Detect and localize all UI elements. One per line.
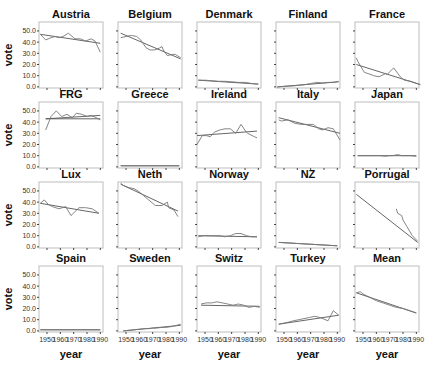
x-axis-label: year <box>376 348 399 360</box>
panel-nz: NZ <box>274 168 340 250</box>
x-tick-label: 1990 <box>251 336 267 343</box>
x-axis-label: year <box>218 348 241 360</box>
y-tick-label: 20.0 <box>22 141 36 148</box>
y-tick-label: 0.0 <box>26 243 36 250</box>
panel-title: Norway <box>209 168 250 180</box>
y-tick-label: 20.0 <box>22 305 36 312</box>
panel-frame <box>39 266 103 332</box>
panel-lux: Lux0.010.020.030.040.050.0vote <box>2 168 103 250</box>
panel-title: Lux <box>61 168 81 180</box>
panel-title: Austria <box>52 8 91 20</box>
panel-switz: Switz19501960197019801990year <box>195 252 266 360</box>
y-tick-label: 40.0 <box>22 119 36 126</box>
panel-denmark: Denmark <box>195 8 261 90</box>
panel-sweden: Sweden19501960197019801990year <box>116 252 187 360</box>
y-tick-label: 0.0 <box>26 163 36 170</box>
y-tick-label: 30.0 <box>22 50 36 57</box>
y-tick-label: 0.0 <box>26 327 36 334</box>
y-axis-label: vote <box>2 204 14 227</box>
y-tick-label: 40.0 <box>22 39 36 46</box>
x-axis-label: year <box>297 348 320 360</box>
y-axis-label: vote <box>2 288 14 311</box>
panel-title: Spain <box>56 252 86 264</box>
small-multiples-chart: Austria0.010.020.030.040.050.0voteBelgiu… <box>0 0 433 365</box>
x-tick-label: 1990 <box>172 336 188 343</box>
panel-austria: Austria0.010.020.030.040.050.0vote <box>2 8 103 90</box>
panel-porrugal: Porrugal <box>353 168 419 250</box>
x-axis-label: year <box>139 348 162 360</box>
panel-title: Sweden <box>129 252 171 264</box>
panel-title: Neth <box>138 168 163 180</box>
y-tick-label: 50.0 <box>22 27 36 34</box>
y-tick-label: 50.0 <box>22 107 36 114</box>
panel-title: Belgium <box>128 8 172 20</box>
panel-title: NZ <box>301 168 316 180</box>
panel-france: France <box>353 8 420 90</box>
panel-frame <box>197 266 261 332</box>
y-tick-label: 30.0 <box>22 294 36 301</box>
panel-title: FRG <box>59 88 82 100</box>
panel-mean: Mean19501960197019801990year <box>353 252 424 360</box>
y-tick-label: 10.0 <box>22 152 36 159</box>
y-axis-label: vote <box>2 124 14 147</box>
y-tick-label: 10.0 <box>22 232 36 239</box>
y-tick-label: 10.0 <box>22 72 36 79</box>
panel-frame <box>355 182 419 248</box>
y-tick-label: 50.0 <box>22 187 36 194</box>
panel-frame <box>118 102 182 168</box>
panel-frame <box>39 22 103 88</box>
panel-frame <box>39 102 103 168</box>
x-axis-label: year <box>60 348 83 360</box>
panel-title: Ireland <box>211 88 247 100</box>
y-tick-label: 30.0 <box>22 210 36 217</box>
panel-frame <box>355 266 419 332</box>
panel-spain: Spain0.010.020.030.040.050.0195019601970… <box>2 252 108 360</box>
panel-frame <box>276 22 340 88</box>
panel-frame <box>197 182 261 248</box>
panel-turkey: Turkey19501960197019801990year <box>274 252 345 360</box>
y-tick-label: 20.0 <box>22 221 36 228</box>
panel-frame <box>118 182 182 248</box>
y-tick-label: 40.0 <box>22 283 36 290</box>
panel-ireland: Ireland <box>195 88 261 170</box>
panel-greece: Greece <box>116 88 182 170</box>
y-tick-label: 50.0 <box>22 271 36 278</box>
panel-frame <box>355 102 419 168</box>
panel-frame <box>118 266 182 332</box>
panel-title: Turkey <box>290 252 326 264</box>
panel-title: Denmark <box>205 8 253 20</box>
y-tick-label: 10.0 <box>22 316 36 323</box>
panel-frame <box>355 22 419 88</box>
panel-frame <box>276 266 340 332</box>
panel-norway: Norway <box>195 168 261 250</box>
panel-frg: FRG0.010.020.030.040.050.0vote <box>2 88 103 170</box>
y-tick-label: 20.0 <box>22 61 36 68</box>
y-tick-label: 40.0 <box>22 199 36 206</box>
y-axis-label: vote <box>2 44 14 67</box>
panel-frame <box>276 182 340 248</box>
panel-frame <box>276 102 340 168</box>
panel-title: Italy <box>297 88 320 100</box>
panel-title: Switz <box>215 252 244 264</box>
x-tick-label: 1990 <box>93 336 109 343</box>
panel-frame <box>197 22 261 88</box>
panel-italy: Italy <box>274 88 340 170</box>
panel-title: Porrugal <box>364 168 409 180</box>
y-tick-label: 0.0 <box>26 83 36 90</box>
panel-title: Mean <box>373 252 401 264</box>
x-tick-label: 1990 <box>409 336 425 343</box>
panel-neth: Neth <box>116 168 182 250</box>
panel-title: France <box>369 8 405 20</box>
panel-finland: Finland <box>274 8 340 90</box>
panel-belgium: Belgium <box>116 8 182 90</box>
panel-japan: Japan <box>353 88 419 170</box>
panel-title: Greece <box>131 88 168 100</box>
panel-title: Finland <box>288 8 327 20</box>
y-tick-label: 30.0 <box>22 130 36 137</box>
panel-title: Japan <box>371 88 403 100</box>
x-tick-label: 1990 <box>330 336 346 343</box>
